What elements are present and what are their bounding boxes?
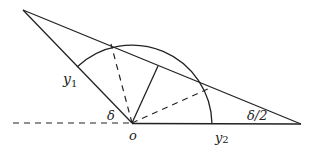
label-y2: y2 <box>214 130 229 145</box>
label-y1: y1 <box>62 71 77 89</box>
label-delta: δ <box>107 108 115 123</box>
dashed-radius-right <box>132 88 210 123</box>
label-origin: o <box>129 128 137 143</box>
label-delta-half: δ/2 <box>247 108 267 123</box>
perpendicular-line <box>132 66 158 123</box>
hypotenuse-line <box>23 10 301 124</box>
semicircle-arc <box>77 45 212 124</box>
geometry-diagram: y1 δ o y2 δ/2 <box>0 0 312 156</box>
base-line <box>132 124 301 125</box>
